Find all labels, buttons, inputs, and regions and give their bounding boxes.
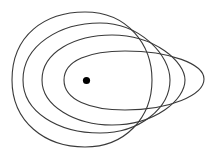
center-point <box>83 77 90 84</box>
contour-diagram <box>0 0 214 155</box>
contour-diagram-svg <box>0 0 214 155</box>
